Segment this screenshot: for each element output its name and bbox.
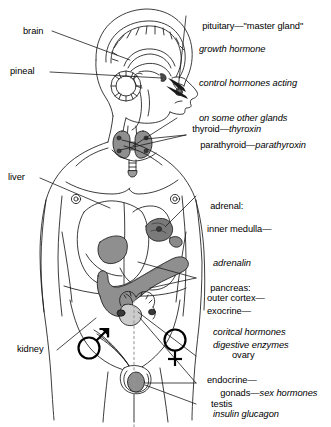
label-pineal: pineal — [10, 66, 35, 77]
label-brain: brain — [23, 26, 43, 37]
adrenal-line3-text: adrenalin — [200, 258, 286, 269]
parathyroid-italic-text: parathyroxin — [255, 140, 306, 150]
label-liver: liver — [8, 172, 25, 183]
endocrine-diagram: brain pineal liver kidney pituitary—"mas… — [0, 0, 331, 427]
male-symbol — [79, 329, 109, 359]
label-ovary: ovary — [232, 350, 254, 361]
gonads-italic-text: sex hormones — [260, 388, 318, 398]
pituitary-head-text: pituitary—"master gland" — [202, 21, 303, 31]
pancreas-line2-text: exocrine— — [200, 306, 289, 317]
female-symbol — [165, 330, 186, 367]
pituitary-line2-text: growth hormone — [192, 44, 303, 55]
pancreas-head-text: pancreas: — [210, 283, 250, 293]
label-testis: testis — [211, 399, 232, 410]
label-parathyroid: parathyroid—parathyroxin — [190, 129, 306, 163]
pituitary-line3-text: control hormones acting — [192, 78, 303, 89]
adrenal-head-text: adrenal: — [210, 201, 243, 211]
adrenal-line2-text: inner medulla— — [200, 224, 286, 235]
label-kidney: kidney — [17, 344, 44, 355]
gonads-plain-text: gonads— — [220, 388, 259, 398]
parathyroid-plain-text: parathyroid— — [200, 140, 255, 150]
